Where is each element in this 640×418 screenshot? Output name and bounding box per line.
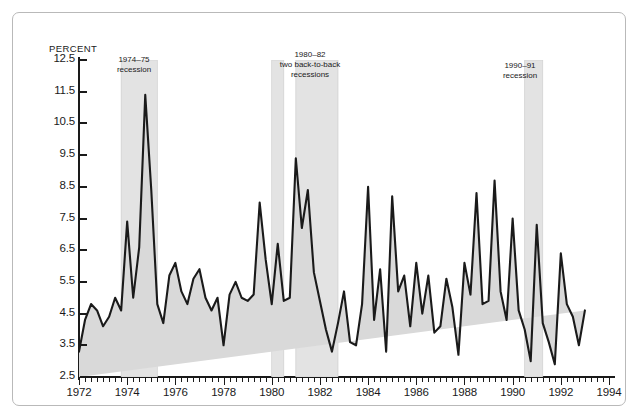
x-axis-minor-tick bbox=[446, 378, 447, 382]
annotation-line: two back-to-back bbox=[249, 60, 371, 70]
x-axis-minor-tick bbox=[470, 378, 471, 382]
x-axis-minor-tick bbox=[555, 378, 556, 382]
x-axis-minor-tick bbox=[169, 378, 170, 382]
x-axis-minor-tick bbox=[591, 378, 592, 382]
x-axis-minor-tick bbox=[338, 378, 339, 382]
x-axis-minor-tick bbox=[398, 378, 399, 382]
x-axis-minor-tick bbox=[344, 378, 345, 382]
y-axis-tick bbox=[80, 154, 87, 156]
x-axis-minor-tick bbox=[507, 378, 508, 382]
x-axis-minor-tick bbox=[139, 378, 140, 382]
x-axis-tick-label: 1976 bbox=[163, 386, 188, 398]
x-axis-minor-tick bbox=[428, 378, 429, 382]
x-axis-minor-tick bbox=[495, 378, 496, 382]
x-axis-minor-tick bbox=[380, 378, 381, 382]
chart-frame: PERCENT 12.511.510.59.58.57.56.55.54.53.… bbox=[12, 12, 626, 406]
y-axis-tick bbox=[80, 59, 87, 61]
x-axis-minor-tick bbox=[103, 378, 104, 382]
x-axis-major-tick bbox=[224, 378, 225, 385]
x-axis-minor-tick bbox=[242, 378, 243, 382]
x-axis-minor-tick bbox=[181, 378, 182, 382]
x-axis-minor-tick bbox=[236, 378, 237, 382]
y-axis-tick-label: 6.5 bbox=[35, 242, 75, 254]
y-axis-tick bbox=[80, 122, 87, 124]
x-axis-tick-label: 1982 bbox=[308, 386, 333, 398]
x-axis-minor-tick bbox=[374, 378, 375, 382]
y-axis-tick bbox=[80, 91, 87, 93]
x-axis-minor-tick bbox=[489, 378, 490, 382]
annotation-line: 1990–91 bbox=[483, 61, 557, 71]
x-axis-minor-tick bbox=[248, 378, 249, 382]
x-axis-major-tick bbox=[561, 378, 562, 385]
x-axis-minor-tick bbox=[483, 378, 484, 382]
x-axis-tick-label: 1980 bbox=[259, 386, 284, 398]
x-axis-tick-label: 1972 bbox=[67, 386, 92, 398]
x-axis-minor-tick bbox=[133, 378, 134, 382]
y-axis-tick bbox=[80, 344, 87, 346]
x-axis-minor-tick bbox=[362, 378, 363, 382]
x-axis-minor-tick bbox=[115, 378, 116, 382]
x-axis-minor-tick bbox=[109, 378, 110, 382]
x-axis-tick-label: 1984 bbox=[356, 386, 381, 398]
x-axis-minor-tick bbox=[284, 378, 285, 382]
x-axis-tick-label: 1994 bbox=[597, 386, 622, 398]
x-axis-minor-tick bbox=[350, 378, 351, 382]
x-axis-major-tick bbox=[272, 378, 273, 385]
x-axis-minor-tick bbox=[187, 378, 188, 382]
x-axis-minor-tick bbox=[332, 378, 333, 382]
x-axis-minor-tick bbox=[356, 378, 357, 382]
x-axis-minor-tick bbox=[519, 378, 520, 382]
x-axis-minor-tick bbox=[205, 378, 206, 382]
y-axis-tick-label: 12.5 bbox=[35, 52, 75, 64]
y-axis-tick-label: 2.5 bbox=[35, 369, 75, 381]
x-axis-minor-tick bbox=[585, 378, 586, 382]
x-axis-minor-tick bbox=[579, 378, 580, 382]
x-axis-minor-tick bbox=[121, 378, 122, 382]
y-axis-tick bbox=[80, 376, 87, 378]
y-axis-tick-label: 8.5 bbox=[35, 179, 75, 191]
annotation-recession-1990: 1990–91recession bbox=[483, 61, 557, 81]
x-axis-minor-tick bbox=[501, 378, 502, 382]
x-axis-major-tick bbox=[513, 378, 514, 385]
x-axis-tick-label: 1978 bbox=[211, 386, 236, 398]
x-axis-tick-label: 1990 bbox=[500, 386, 525, 398]
y-axis-tick bbox=[80, 249, 87, 251]
x-axis-minor-tick bbox=[452, 378, 453, 382]
x-axis-minor-tick bbox=[260, 378, 261, 382]
x-axis-minor-tick bbox=[278, 378, 279, 382]
x-axis-minor-tick bbox=[157, 378, 158, 382]
series-area-chart bbox=[79, 60, 609, 377]
x-axis-major-tick bbox=[175, 378, 176, 385]
annotation-line: 1974–75 bbox=[104, 55, 164, 65]
x-axis-tick-label: 1992 bbox=[548, 386, 573, 398]
annotation-line: recessions bbox=[249, 70, 371, 80]
y-axis-tick-label: 5.5 bbox=[35, 274, 75, 286]
x-axis-minor-tick bbox=[440, 378, 441, 382]
y-axis-tick bbox=[80, 186, 87, 188]
y-axis-tick-label: 3.5 bbox=[35, 337, 75, 349]
x-axis-minor-tick bbox=[290, 378, 291, 382]
x-axis-major-tick bbox=[416, 378, 417, 385]
x-axis-minor-tick bbox=[314, 378, 315, 382]
x-axis-major-tick bbox=[464, 378, 465, 385]
x-axis-minor-tick bbox=[531, 378, 532, 382]
y-axis-tick bbox=[80, 281, 87, 283]
x-axis-minor-tick bbox=[212, 378, 213, 382]
x-axis-major-tick bbox=[127, 378, 128, 385]
y-axis-tick bbox=[80, 218, 87, 220]
x-axis-minor-tick bbox=[163, 378, 164, 382]
annotation-line: recession bbox=[104, 65, 164, 75]
y-axis-tick bbox=[80, 313, 87, 315]
x-axis-minor-tick bbox=[302, 378, 303, 382]
x-axis-minor-tick bbox=[410, 378, 411, 382]
y-axis-tick-label: 11.5 bbox=[35, 84, 75, 96]
annotation-line: recession bbox=[483, 71, 557, 81]
x-axis-major-tick bbox=[79, 378, 80, 385]
annotation-recession-1974: 1974–75recession bbox=[104, 55, 164, 75]
x-axis-tick-label: 1988 bbox=[452, 386, 477, 398]
annotation-line: 1980–82 bbox=[249, 50, 371, 60]
x-axis-minor-tick bbox=[326, 378, 327, 382]
x-axis-major-tick bbox=[609, 378, 610, 385]
x-axis-minor-tick bbox=[91, 378, 92, 382]
chart-page: PERCENT 12.511.510.59.58.57.56.55.54.53.… bbox=[0, 0, 640, 418]
